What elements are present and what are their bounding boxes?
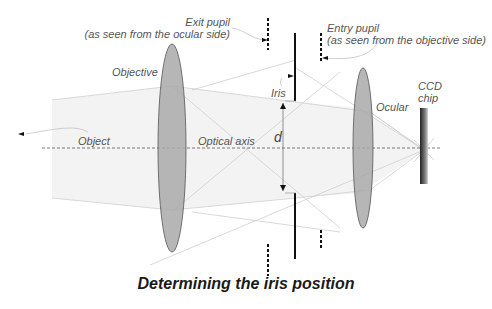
optical-diagram <box>0 0 492 309</box>
diagram-caption: Determining the iris position <box>0 275 492 293</box>
ccd-label-line2: chip <box>418 92 442 104</box>
object-label: Object <box>78 135 110 147</box>
exit-pupil-title: Exit pupil <box>62 16 230 28</box>
entry-pupil-subtitle: (as seen from the objective side) <box>327 34 486 46</box>
ocular-lens <box>353 68 373 228</box>
exit-pupil-subtitle: (as seen from the ocular side) <box>62 28 230 40</box>
entry-pupil-title: Entry pupil <box>327 22 486 34</box>
ccd-chip-label: CCD chip <box>418 80 442 104</box>
iris-label: Iris <box>271 87 286 99</box>
exit-pupil-label: Exit pupil (as seen from the ocular side… <box>62 16 230 40</box>
entry-pupil-label: Entry pupil (as seen from the objective … <box>327 22 486 46</box>
ccd-label-line1: CCD <box>418 80 442 92</box>
ccd-chip <box>420 108 428 184</box>
objective-lens <box>158 44 186 252</box>
ocular-label: Ocular <box>376 101 408 113</box>
objective-label: Objective <box>112 66 158 78</box>
optical-axis-label: Optical axis <box>198 135 255 147</box>
d-label: d <box>274 131 282 143</box>
